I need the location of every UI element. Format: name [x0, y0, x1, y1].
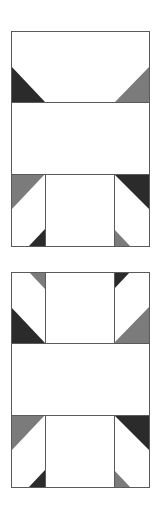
block-outline — [12, 32, 150, 247]
block-top — [11, 32, 150, 247]
quilt-diagram — [0, 0, 159, 507]
block-bottom — [11, 272, 150, 488]
block-outline — [12, 273, 150, 488]
